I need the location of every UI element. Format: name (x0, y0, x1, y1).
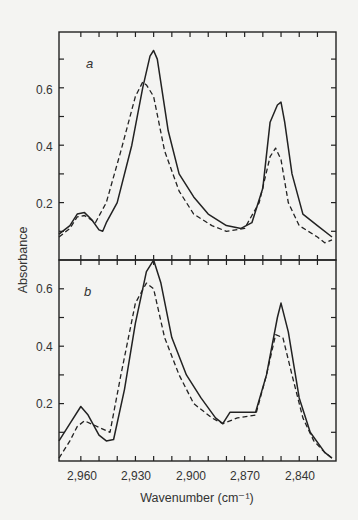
panel-a-label: a (86, 56, 93, 71)
y-tick-label-a-0.6: 0.6 (36, 83, 53, 97)
y-tick-label-b-0.6: 0.6 (36, 282, 53, 296)
panel-b-dashed-curve (59, 283, 332, 458)
x-tick-label-2930: 2,930 (121, 469, 151, 483)
x-tick-label-2870: 2,870 (230, 469, 260, 483)
y-axis-title: Absorbance (16, 227, 30, 294)
panel-a-frame (59, 32, 336, 260)
ir-spectra-chart: a b 0.6 0.4 0.2 0.6 0.4 0.2 2,960 2,930 … (0, 0, 358, 520)
panel-b-label: b (84, 284, 91, 299)
y-tick-label-a-0.2: 0.2 (36, 197, 53, 211)
y-tick-label-b-0.4: 0.4 (36, 340, 53, 354)
y-tick-label-b-0.2: 0.2 (36, 397, 53, 411)
y-tick-label-a-0.4: 0.4 (36, 140, 53, 154)
x-tick-label-2900: 2,900 (176, 469, 206, 483)
panel-b-frame (59, 260, 336, 461)
axis-ticks (59, 32, 336, 461)
x-tick-label-2840: 2,840 (285, 469, 315, 483)
x-axis-title: Wavenumber (cm⁻¹) (140, 491, 254, 505)
x-tick-label-2960: 2,960 (67, 469, 97, 483)
panel-b-solid-curve (59, 260, 332, 458)
